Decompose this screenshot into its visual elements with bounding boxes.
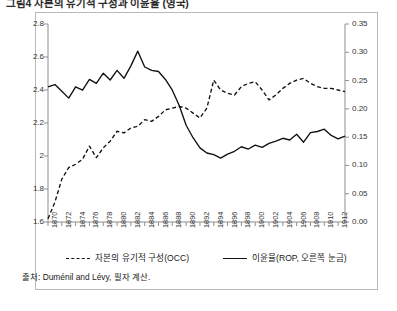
x-axis-tick-label: 1894 [217, 212, 224, 228]
axis-lines [48, 24, 345, 222]
x-axis-tick-label: 1884 [148, 212, 155, 228]
x-axis-tick-label: 1886 [162, 212, 169, 228]
legend-label-occ: 자본의 유기적 구성(OCC) [95, 254, 189, 263]
y-axis-left-tick-label: 1.8 [18, 185, 44, 193]
x-axis-tick-label: 1870 [51, 212, 58, 228]
y-axis-left-tick-label: 2.4 [18, 86, 44, 94]
figure-container: 그림4 자본의 유기적 구성과 이윤율 (영국) 1.61.822.22.42.… [0, 0, 397, 311]
x-axis-tick-label: 1880 [120, 212, 127, 228]
x-axis-tick-label: 1892 [203, 212, 210, 228]
legend-swatch-dashed-icon [66, 258, 90, 259]
chart-legend: 자본의 유기적 구성(OCC) 이윤율(ROP, 오른쪽 눈금) [35, 250, 378, 266]
x-axis-tick-label: 1890 [189, 212, 196, 228]
legend-swatch-solid-icon [223, 258, 247, 259]
legend-item-rop: 이윤율(ROP, 오른쪽 눈금) [223, 254, 346, 263]
y-axis-left-tick-label: 2.8 [18, 20, 44, 28]
x-axis-tick-label: 1876 [92, 212, 99, 228]
y-axis-left-tick-label: 2.6 [18, 53, 44, 61]
legend-label-rop: 이윤율(ROP, 오른쪽 눈금) [252, 254, 346, 263]
x-axis-tick-label: 1910 [327, 212, 334, 228]
x-axis-tick-label: 1888 [175, 212, 182, 228]
y-axis-right-tick-label: 0.35 [352, 20, 368, 28]
series-line-rop [48, 51, 345, 158]
x-axis-tick-label: 1908 [313, 212, 320, 228]
x-axis-tick-label: 1874 [79, 212, 86, 228]
legend-item-occ: 자본의 유기적 구성(OCC) [66, 254, 189, 263]
series-line-occ [48, 78, 345, 218]
x-axis-tick-label: 1898 [244, 212, 251, 228]
y-axis-left-tick-label: 2.2 [18, 119, 44, 127]
y-axis-left-tick-label: 2 [18, 152, 44, 160]
y-axis-right-tick-label: 0.00 [352, 218, 368, 226]
x-axis-tick-label: 1906 [300, 212, 307, 228]
x-axis-tick-label: 1896 [231, 212, 238, 228]
x-axis-tick-label: 1872 [65, 212, 72, 228]
x-axis-tick-label: 1902 [272, 212, 279, 228]
y-axis-right-tick-label: 0.05 [352, 190, 368, 198]
y-axis-right-tick-label: 0.30 [352, 48, 368, 56]
x-axis-tick-label: 1900 [258, 212, 265, 228]
y-axis-right-tick-label: 0.15 [352, 133, 368, 141]
x-axis-tick-label: 1882 [134, 212, 141, 228]
source-note: 출처: Duménil and Lévy, 필자 계산. [22, 270, 150, 282]
x-axis-tick-label: 1912 [341, 212, 348, 228]
y-axis-right-tick-label: 0.10 [352, 161, 368, 169]
y-axis-left-tick-label: 1.6 [18, 218, 44, 226]
y-axis-right-tick-label: 0.20 [352, 105, 368, 113]
y-axis-right-tick-label: 0.25 [352, 77, 368, 85]
axis-tick-marks [44, 24, 349, 226]
x-axis-tick-label: 1904 [286, 212, 293, 228]
x-axis-tick-label: 1878 [106, 212, 113, 228]
